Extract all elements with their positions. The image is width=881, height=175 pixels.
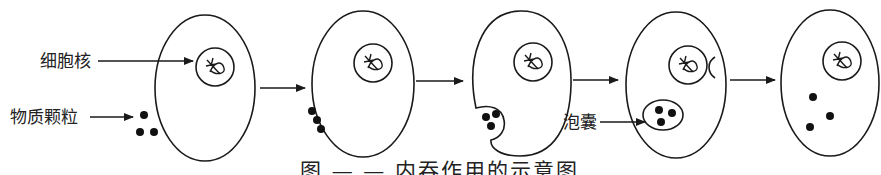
nucleus	[823, 42, 861, 80]
cell-membrane-invaginated	[473, 11, 571, 156]
particle	[150, 128, 158, 136]
cell-stage-4	[626, 12, 726, 158]
cell-stage-3	[473, 11, 571, 156]
nucleus	[669, 46, 707, 84]
vesicle-label: 泡囊	[563, 112, 597, 132]
cell-stage-1	[136, 15, 255, 161]
cell-membrane	[781, 10, 879, 156]
particle	[136, 128, 144, 136]
particle	[308, 107, 316, 115]
figure-caption: 图 — — 内吞作用的示意图	[300, 158, 579, 175]
particle	[313, 116, 321, 124]
particle	[806, 123, 814, 131]
nucleus	[514, 43, 552, 81]
chromatin	[833, 52, 851, 68]
particle	[317, 125, 325, 133]
nuclear-bud	[709, 57, 715, 78]
endocytosis-diagram: 细胞核 物质颗粒 泡囊 图 — — 内吞作用的示意图	[0, 0, 881, 175]
particles-label: 物质颗粒	[10, 107, 78, 127]
chromatin	[524, 53, 542, 69]
particle	[482, 113, 490, 121]
particle	[487, 122, 495, 130]
diagram-canvas	[0, 0, 881, 175]
chromatin	[679, 56, 697, 72]
particle	[809, 93, 817, 101]
particle	[668, 109, 676, 117]
particle	[655, 106, 663, 114]
particle	[492, 110, 500, 118]
cell-stage-5	[781, 10, 879, 156]
chromatin	[364, 54, 382, 70]
nucleus	[196, 48, 234, 86]
nucleus-label: 细胞核	[40, 51, 91, 71]
vesicle	[643, 100, 683, 130]
chromatin	[206, 58, 224, 74]
cell-membrane	[626, 12, 726, 158]
particle	[826, 112, 834, 120]
particle	[140, 111, 148, 119]
cell-stage-2	[308, 11, 414, 157]
nucleus	[354, 44, 392, 82]
cell-membrane	[155, 15, 255, 161]
cell-membrane	[312, 11, 414, 157]
particle	[657, 118, 665, 126]
